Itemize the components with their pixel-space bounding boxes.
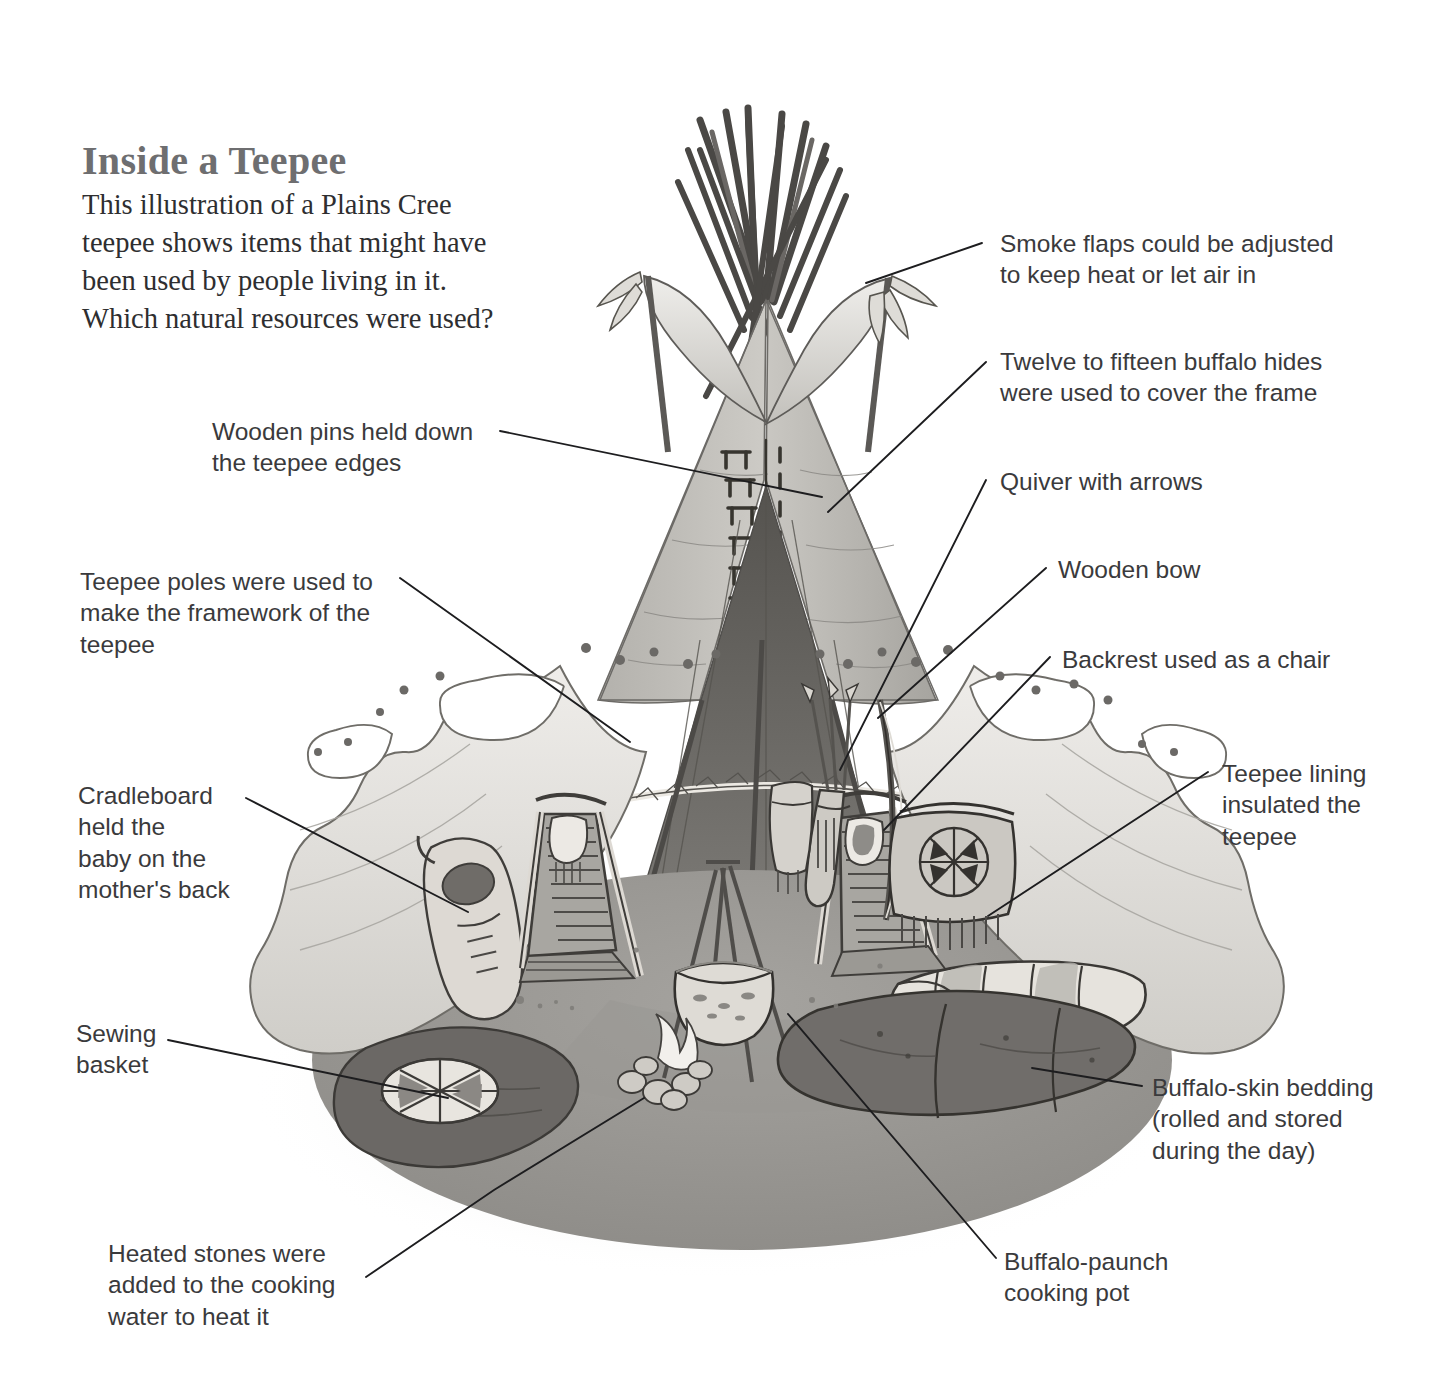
- leader-buffalo-hides: [828, 362, 986, 512]
- label-quiver-with-arrows: Quiver with arrows: [1000, 466, 1340, 497]
- label-teepee-lining: Teepee lining insulated the teepee: [1222, 758, 1422, 852]
- leader-smoke-flaps: [866, 243, 982, 283]
- label-smoke-flaps: Smoke flaps could be adjusted to keep he…: [1000, 228, 1370, 291]
- label-cradleboard: Cradleboard held the baby on the mother'…: [78, 780, 298, 905]
- label-wooden-bow: Wooden bow: [1058, 554, 1358, 585]
- teepee-illustration: [0, 0, 1437, 1376]
- label-buffalo-skin-bedding: Buffalo-skin bedding (rolled and stored …: [1152, 1072, 1437, 1166]
- label-heated-stones: Heated stones were added to the cooking …: [108, 1238, 408, 1332]
- label-backrest: Backrest used as a chair: [1062, 644, 1392, 675]
- label-cooking-pot: Buffalo-paunch cooking pot: [1004, 1246, 1264, 1309]
- illustration-page: Inside a Teepee This illustration of a P…: [0, 0, 1437, 1376]
- label-sewing-basket: Sewing basket: [76, 1018, 256, 1081]
- label-teepee-poles: Teepee poles were used to make the frame…: [80, 566, 410, 660]
- label-buffalo-hides: Twelve to fifteen buffalo hides were use…: [1000, 346, 1370, 409]
- label-wooden-pins: Wooden pins held down the teepee edges: [212, 416, 512, 479]
